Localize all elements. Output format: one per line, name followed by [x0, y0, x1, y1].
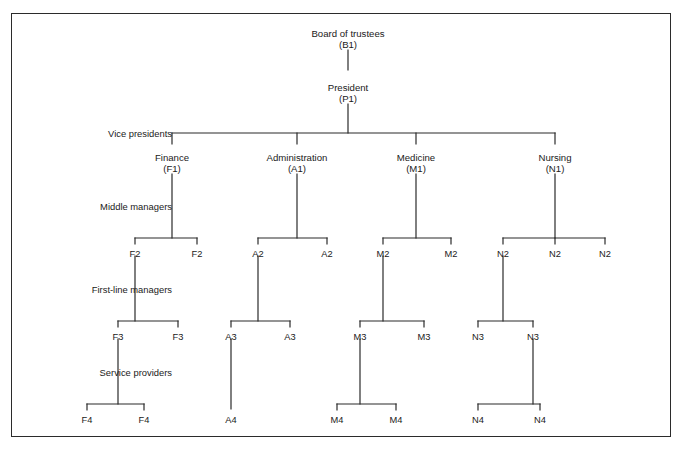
node-code-f4-b: F4: [139, 415, 150, 426]
node-code-n4-a: N4: [472, 415, 484, 426]
node-m4-a: M4: [331, 415, 344, 426]
node-a4-a: A4: [225, 415, 236, 426]
node-code-m4-b: M4: [390, 415, 403, 426]
node-president: President(P1): [328, 82, 369, 105]
node-title-vp-nursing: Nursing: [538, 152, 571, 163]
node-code-a3-a: A3: [225, 332, 236, 343]
tier-label-vice-presidents: Vice presidents: [108, 128, 172, 139]
node-m4-b: M4: [390, 415, 403, 426]
node-code-vp-medicine: (M1): [397, 163, 435, 174]
node-a3-b: A3: [284, 332, 295, 343]
node-vp-nursing: Nursing(N1): [538, 152, 571, 175]
node-f4-a: F4: [82, 415, 93, 426]
node-code-president: (P1): [328, 93, 369, 104]
node-m2-b: M2: [445, 249, 458, 260]
node-code-m2-b: M2: [445, 249, 458, 260]
node-n2-b: N2: [549, 249, 561, 260]
node-f2-b: F2: [192, 249, 203, 260]
org-chart-figure: Vice presidentsMiddle managersFirst-line…: [0, 0, 684, 450]
node-m3-b: M3: [418, 332, 431, 343]
node-n2-a: N2: [497, 249, 509, 260]
node-a2-a: A2: [252, 249, 263, 260]
node-m2-a: M2: [377, 249, 390, 260]
node-code-vp-finance: (F1): [155, 163, 189, 174]
node-code-a3-b: A3: [284, 332, 295, 343]
node-code-n3-a: N3: [472, 332, 484, 343]
node-n2-c: N2: [599, 249, 611, 260]
node-code-n2-a: N2: [497, 249, 509, 260]
node-f4-b: F4: [139, 415, 150, 426]
node-title-vp-medicine: Medicine: [397, 152, 435, 163]
node-code-board: (B1): [311, 39, 384, 50]
node-title-vp-administration: Administration: [267, 152, 328, 163]
node-n4-a: N4: [472, 415, 484, 426]
node-title-president: President: [328, 82, 369, 93]
connector-lines: [0, 0, 684, 450]
node-code-a4-a: A4: [225, 415, 236, 426]
tier-label-middle-managers: Middle managers: [100, 201, 172, 212]
node-code-vp-nursing: (N1): [538, 163, 571, 174]
node-n3-a: N3: [472, 332, 484, 343]
node-code-m2-a: M2: [377, 249, 390, 260]
node-f3-a: F3: [113, 332, 124, 343]
node-code-f2-b: F2: [192, 249, 203, 260]
node-code-f3-a: F3: [113, 332, 124, 343]
node-title-vp-finance: Finance: [155, 152, 189, 163]
node-m3-a: M3: [354, 332, 367, 343]
node-code-f2-a: F2: [130, 249, 141, 260]
node-a2-b: A2: [321, 249, 332, 260]
node-board: Board of trustees(B1): [311, 28, 384, 51]
node-f3-b: F3: [173, 332, 184, 343]
node-code-n3-b: N3: [527, 332, 539, 343]
node-code-f4-a: F4: [82, 415, 93, 426]
node-vp-medicine: Medicine(M1): [397, 152, 435, 175]
node-vp-finance: Finance(F1): [155, 152, 189, 175]
node-code-a2-b: A2: [321, 249, 332, 260]
node-vp-administration: Administration(A1): [267, 152, 328, 175]
tier-label-first-line-managers: First-line managers: [92, 284, 172, 295]
node-n4-b: N4: [534, 415, 546, 426]
node-f2-a: F2: [130, 249, 141, 260]
node-code-m3-a: M3: [354, 332, 367, 343]
node-code-n4-b: N4: [534, 415, 546, 426]
node-code-a2-a: A2: [252, 249, 263, 260]
node-code-vp-administration: (A1): [267, 163, 328, 174]
node-code-n2-b: N2: [549, 249, 561, 260]
node-n3-b: N3: [527, 332, 539, 343]
tier-label-service-providers: Service providers: [100, 367, 172, 378]
node-a3-a: A3: [225, 332, 236, 343]
node-code-f3-b: F3: [173, 332, 184, 343]
node-title-board: Board of trustees: [311, 28, 384, 39]
node-code-m4-a: M4: [331, 415, 344, 426]
node-code-m3-b: M3: [418, 332, 431, 343]
node-code-n2-c: N2: [599, 249, 611, 260]
